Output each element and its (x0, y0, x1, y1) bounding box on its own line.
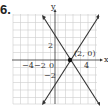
graph: x y −4 −2 0 4 2 −2 (2, 0) (0, 0, 108, 111)
x-axis-label: x (104, 55, 108, 64)
svg-text:−4: −4 (22, 61, 34, 70)
intersection-point (68, 58, 72, 62)
svg-text:−2: −2 (34, 61, 46, 70)
svg-text:−2: −2 (44, 71, 56, 80)
svg-text:0: 0 (49, 61, 54, 70)
point-label: (2, 0) (74, 49, 96, 58)
arrow-icon (97, 102, 100, 106)
svg-text:4: 4 (84, 61, 89, 70)
y-axis-label: y (50, 2, 56, 11)
svg-text:2: 2 (48, 41, 53, 50)
x-axis-arrow-icon (100, 59, 103, 62)
